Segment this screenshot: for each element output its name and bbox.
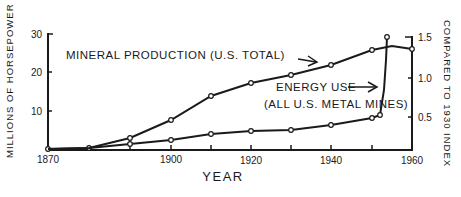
- tick-1900: 1900: [160, 154, 183, 165]
- tick-30: 30: [31, 29, 43, 40]
- tick-1.5: 1.5: [418, 32, 432, 43]
- mineral-arrow-icon: [298, 56, 317, 66]
- tick-1940: 1940: [320, 155, 343, 166]
- y-right-tick-labels: 1.5 1.0 0.5: [418, 32, 432, 123]
- tick-1870: 1870: [37, 154, 60, 165]
- x-axis-title: YEAR: [202, 169, 243, 184]
- line-chart: 30 20 10 1.5 1.0 0.5 1870 1900 1920 1940…: [0, 0, 461, 197]
- energy-use-label: ENERGY USE: [276, 81, 356, 93]
- tick-20: 20: [31, 67, 43, 78]
- tick-1960: 1960: [401, 155, 424, 166]
- tick-10: 10: [31, 106, 43, 117]
- x-tick-labels: 1870 1900 1920 1940 1960: [37, 154, 424, 166]
- tick-0.5: 0.5: [418, 112, 432, 123]
- tick-1.0: 1.0: [418, 73, 432, 84]
- energy-use-sublabel: (ALL U.S. METAL MINES): [264, 98, 408, 110]
- tick-1920: 1920: [240, 155, 263, 166]
- mineral-production-label: MINERAL PRODUCTION (U.S. TOTAL): [66, 49, 285, 61]
- y-left-tick-labels: 30 20 10: [31, 29, 43, 117]
